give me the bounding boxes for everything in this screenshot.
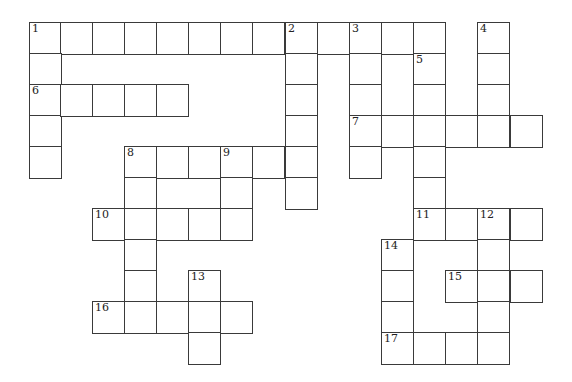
crossword-cell[interactable] — [188, 332, 221, 365]
clue-number: 16 — [95, 302, 109, 314]
crossword-cell[interactable] — [285, 115, 318, 148]
crossword-cell[interactable] — [381, 301, 414, 334]
crossword-cell[interactable] — [188, 22, 221, 55]
crossword-cell[interactable] — [477, 332, 510, 365]
crossword-cell[interactable] — [413, 84, 446, 117]
crossword-cell[interactable] — [124, 208, 157, 241]
crossword-cell[interactable] — [477, 270, 510, 303]
crossword-cell[interactable]: 10 — [92, 208, 125, 241]
crossword-cell[interactable] — [156, 208, 189, 241]
crossword-cell[interactable] — [188, 146, 221, 179]
clue-number: 4 — [480, 23, 487, 35]
crossword-cell[interactable]: 1 — [29, 22, 62, 55]
crossword-cell[interactable] — [92, 22, 125, 55]
crossword-cell[interactable]: 2 — [285, 22, 318, 55]
crossword-cell[interactable] — [29, 146, 62, 179]
crossword-cell[interactable] — [349, 53, 382, 86]
crossword-cell[interactable] — [156, 301, 189, 334]
crossword-cell[interactable]: 9 — [220, 146, 253, 179]
crossword-cell[interactable] — [220, 177, 253, 210]
crossword-cell[interactable] — [381, 115, 414, 148]
crossword-cell[interactable] — [381, 270, 414, 303]
crossword-cell[interactable] — [445, 208, 478, 241]
clue-number: 7 — [352, 116, 359, 128]
crossword-cell[interactable]: 5 — [413, 53, 446, 86]
crossword-cell[interactable] — [349, 84, 382, 117]
crossword-cell[interactable] — [285, 53, 318, 86]
clue-number: 8 — [127, 147, 134, 159]
crossword-cell[interactable] — [29, 115, 62, 148]
crossword-cell[interactable]: 13 — [188, 270, 221, 303]
clue-number: 1 — [32, 23, 39, 35]
clue-number: 3 — [352, 23, 359, 35]
clue-number: 5 — [416, 54, 423, 66]
crossword-cell[interactable] — [413, 146, 446, 179]
clue-number: 13 — [191, 271, 205, 283]
crossword-cell[interactable] — [124, 270, 157, 303]
crossword-cell[interactable]: 15 — [445, 270, 478, 303]
crossword-cell[interactable] — [510, 208, 543, 241]
crossword-cell[interactable] — [349, 146, 382, 179]
clue-number: 14 — [384, 240, 398, 252]
crossword-cell[interactable] — [156, 22, 189, 55]
clue-number: 11 — [416, 209, 430, 221]
crossword-cell[interactable] — [220, 208, 253, 241]
crossword-cell[interactable] — [124, 84, 157, 117]
crossword-cell[interactable] — [188, 301, 221, 334]
crossword-cell[interactable]: 8 — [124, 146, 157, 179]
crossword-cell[interactable] — [510, 270, 543, 303]
crossword-cell[interactable] — [252, 22, 285, 55]
crossword-cell[interactable] — [124, 177, 157, 210]
crossword-cell[interactable] — [285, 177, 318, 210]
crossword-cell[interactable] — [220, 22, 253, 55]
crossword-cell[interactable]: 3 — [349, 22, 382, 55]
crossword-cell[interactable] — [60, 84, 93, 117]
crossword-cell[interactable] — [92, 84, 125, 117]
crossword-cell[interactable] — [445, 332, 478, 365]
crossword-cell[interactable] — [477, 53, 510, 86]
crossword-cell[interactable] — [510, 115, 543, 148]
clue-number: 9 — [223, 147, 230, 159]
crossword-cell[interactable] — [445, 115, 478, 148]
clue-number: 6 — [32, 85, 39, 97]
crossword-cell[interactable] — [413, 22, 446, 55]
crossword-cell[interactable] — [124, 301, 157, 334]
crossword-cell[interactable]: 17 — [381, 332, 414, 365]
crossword-cell[interactable]: 16 — [92, 301, 125, 334]
crossword-cell[interactable]: 12 — [477, 208, 510, 241]
crossword-cell[interactable] — [413, 177, 446, 210]
crossword-cell[interactable]: 14 — [381, 239, 414, 272]
crossword-cell[interactable]: 11 — [413, 208, 446, 241]
clue-number: 17 — [384, 333, 398, 345]
clue-number: 10 — [95, 209, 109, 221]
crossword-cell[interactable] — [188, 208, 221, 241]
crossword-cell[interactable] — [60, 22, 93, 55]
crossword-cell[interactable] — [413, 115, 446, 148]
clue-number: 2 — [288, 23, 295, 35]
crossword-cell[interactable] — [156, 84, 189, 117]
crossword-cell[interactable] — [220, 301, 253, 334]
crossword-cell[interactable] — [124, 22, 157, 55]
crossword-grid: 1236745118910121314171516 — [0, 0, 572, 382]
crossword-cell[interactable] — [477, 301, 510, 334]
crossword-cell[interactable] — [252, 146, 285, 179]
crossword-cell[interactable] — [381, 22, 414, 55]
crossword-cell[interactable] — [477, 239, 510, 272]
crossword-cell[interactable]: 6 — [29, 84, 62, 117]
crossword-cell[interactable] — [285, 84, 318, 117]
clue-number: 15 — [448, 271, 462, 283]
crossword-cell[interactable] — [317, 22, 350, 55]
crossword-cell[interactable] — [156, 146, 189, 179]
crossword-cell[interactable] — [124, 239, 157, 272]
crossword-cell[interactable]: 7 — [349, 115, 382, 148]
crossword-cell[interactable] — [285, 146, 318, 179]
crossword-cell[interactable] — [29, 53, 62, 86]
crossword-cell[interactable] — [477, 115, 510, 148]
crossword-cell[interactable] — [413, 332, 446, 365]
crossword-cell[interactable] — [477, 84, 510, 117]
crossword-cell[interactable]: 4 — [477, 22, 510, 55]
clue-number: 12 — [480, 209, 494, 221]
